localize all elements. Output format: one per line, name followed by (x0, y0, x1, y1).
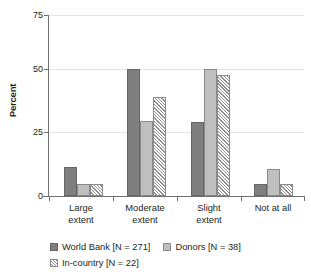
y-tick-label-50: 50 (17, 65, 43, 74)
bar-slight-extent-in-country (217, 75, 230, 196)
x-axis-line (43, 196, 305, 197)
legend-swatch-donors-icon (163, 243, 171, 251)
legend-swatch-in-country-icon (50, 259, 58, 267)
legend-item-donors: Donors [N = 38] (163, 242, 240, 252)
x-axis-label-moderate-extent: Moderate extent (108, 203, 182, 226)
bar-chart: Percent 75 50 25 0 (0, 0, 311, 276)
y-tick-0: 0 (13, 192, 43, 201)
x-axis-label-slight-extent-line2: extent (172, 215, 246, 227)
gridline-75 (49, 15, 304, 16)
x-axis-label-large-extent-line2: extent (44, 215, 118, 227)
y-tick-label-25: 25 (17, 128, 43, 137)
x-axis-label-moderate-extent-line2: extent (108, 215, 182, 227)
y-tick-label-75: 75 (17, 11, 43, 20)
plot-area (49, 15, 304, 196)
legend-row-2: In-country [N = 22] (50, 255, 310, 271)
legend-label-world-bank: World Bank [N = 271] (62, 242, 150, 252)
legend-row-1: World Bank [N = 271] Donors [N = 38] (50, 239, 310, 255)
x-tick-mark-0 (49, 196, 50, 201)
legend-item-world-bank: World Bank [N = 271] (50, 242, 150, 252)
bar-slight-extent-world-bank (191, 122, 204, 196)
y-axis-title: Percent (7, 71, 18, 131)
gridline-50 (49, 69, 304, 70)
bar-large-extent-donors (77, 184, 90, 196)
y-tick-label-0: 0 (17, 192, 43, 201)
chart-legend: World Bank [N = 271] Donors [N = 38] In-… (50, 239, 310, 271)
bar-moderate-extent-donors (140, 121, 153, 196)
legend-item-in-country: In-country [N = 22] (50, 258, 139, 268)
bar-slight-extent-donors (204, 69, 217, 196)
x-axis-label-not-at-all: Not at all (236, 203, 310, 215)
x-tick-mark-4 (304, 196, 305, 201)
x-axis-label-moderate-extent-line1: Moderate (108, 203, 182, 215)
legend-label-in-country: In-country [N = 22] (62, 258, 139, 268)
legend-swatch-world-bank-icon (50, 243, 58, 251)
legend-label-donors: Donors [N = 38] (175, 242, 240, 252)
x-axis-label-large-extent: Large extent (44, 203, 118, 226)
x-axis-label-slight-extent: Slight extent (172, 203, 246, 226)
bar-not-at-all-in-country (280, 184, 293, 196)
x-axis-label-not-at-all-line1: Not at all (236, 203, 310, 215)
y-tick-75: 75 (13, 11, 43, 20)
gridline-25 (49, 132, 304, 133)
x-tick-mark-3 (241, 196, 242, 201)
bar-large-extent-in-country (90, 184, 103, 196)
y-tick-25: 25 (13, 128, 43, 137)
bar-not-at-all-world-bank (254, 184, 267, 196)
bar-not-at-all-donors (267, 169, 280, 196)
bar-moderate-extent-world-bank (127, 69, 140, 196)
x-tick-mark-1 (113, 196, 114, 201)
x-axis-label-slight-extent-line1: Slight (172, 203, 246, 215)
x-tick-mark-2 (177, 196, 178, 201)
x-axis-label-large-extent-line1: Large (44, 203, 118, 215)
bar-large-extent-world-bank (64, 167, 77, 196)
bar-moderate-extent-in-country (153, 97, 166, 196)
y-tick-50: 50 (13, 65, 43, 74)
